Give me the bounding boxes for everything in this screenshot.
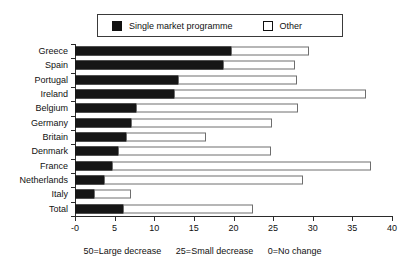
bar-row: France [75, 159, 392, 173]
x-axis-tick [273, 216, 274, 221]
bar-segment-other [136, 104, 299, 113]
bar-chart: Single market programme Other GreeceSpai… [0, 0, 405, 274]
chart-footnote: 50=Large decrease 25=Small decrease 0=No… [0, 246, 405, 257]
footnote-large-decrease: 50=Large decrease [84, 246, 162, 256]
footnote-no-change: 0=No change [268, 246, 322, 256]
stacked-bar [75, 133, 206, 142]
bar-segment-single-market-programme [75, 75, 179, 84]
legend-label-single-market-programme: Single market programme [129, 21, 233, 31]
bar-segment-single-market-programme [75, 147, 119, 156]
bar-row: Belgium [75, 101, 392, 115]
bar-row: Netherlands [75, 173, 392, 187]
bar-segment-other [118, 147, 271, 156]
y-axis-tick [71, 187, 76, 188]
bar-segment-single-market-programme [75, 133, 127, 142]
plot-area: GreeceSpainPortugalIrelandBelgiumGermany… [75, 44, 392, 216]
y-axis-label-belgium: Belgium [35, 103, 68, 113]
bar-segment-other [126, 133, 205, 142]
stacked-bar [75, 161, 371, 170]
bar-segment-single-market-programme [75, 47, 232, 56]
bar-row: Germany [75, 116, 392, 130]
x-axis-label-10: 10 [149, 223, 159, 233]
x-axis-label-25: 25 [268, 223, 278, 233]
legend-item-other: Other [263, 21, 303, 31]
x-axis-label-30: 30 [308, 223, 318, 233]
x-axis-label-40: 40 [387, 223, 397, 233]
bar-row: Denmark [75, 144, 392, 158]
y-axis-label-portugal: Portugal [34, 75, 68, 85]
x-axis-tick [75, 216, 76, 221]
y-axis-label-italy: Italy [51, 189, 68, 199]
bar-segment-other [231, 47, 309, 56]
bar-segment-other [223, 61, 295, 70]
bar-segment-other [131, 118, 271, 127]
bar-segment-single-market-programme [75, 118, 132, 127]
footnote-small-decrease: 25=Small decrease [176, 246, 253, 256]
stacked-bar [75, 90, 366, 99]
bar-row: Britain [75, 130, 392, 144]
y-axis-label-denmark: Denmark [31, 146, 68, 156]
stacked-bar [75, 204, 253, 213]
x-axis-tick [313, 216, 314, 221]
y-axis-tick [71, 116, 76, 117]
x-axis-tick [194, 216, 195, 221]
stacked-bar [75, 47, 309, 56]
legend-swatch-hollow-icon [263, 21, 273, 31]
x-axis-tick [234, 216, 235, 221]
bar-rows: GreeceSpainPortugalIrelandBelgiumGermany… [75, 44, 392, 216]
bar-segment-other [112, 161, 371, 170]
bar-segment-other [178, 75, 297, 84]
x-axis-label-35: 35 [347, 223, 357, 233]
bar-row: Ireland [75, 87, 392, 101]
stacked-bar [75, 118, 272, 127]
y-axis-label-britain: Britain [42, 132, 68, 142]
y-axis-label-spain: Spain [45, 60, 68, 70]
x-axis-label-15: 15 [189, 223, 199, 233]
x-axis-tick [392, 216, 393, 221]
bar-row: Greece [75, 44, 392, 58]
y-axis-tick [71, 58, 76, 59]
legend-swatch-filled-icon [112, 21, 122, 31]
bar-segment-other [123, 204, 252, 213]
y-axis-tick [71, 73, 76, 74]
bar-row: Total [75, 202, 392, 216]
y-axis-tick [71, 130, 76, 131]
bar-segment-single-market-programme [75, 90, 175, 99]
bar-segment-other [94, 190, 131, 199]
stacked-bar [75, 176, 303, 185]
y-axis-tick [71, 173, 76, 174]
bar-segment-single-market-programme [75, 176, 105, 185]
legend-item-single-market-programme: Single market programme [112, 21, 233, 31]
chart-legend: Single market programme Other [97, 14, 343, 37]
y-axis-tick [71, 159, 76, 160]
bar-segment-single-market-programme [75, 190, 95, 199]
y-axis-label-france: France [40, 161, 68, 171]
x-axis-tick [154, 216, 155, 221]
y-axis-label-germany: Germany [31, 118, 68, 128]
bar-segment-other [174, 90, 366, 99]
y-axis-label-greece: Greece [38, 46, 68, 56]
bar-segment-single-market-programme [75, 161, 113, 170]
y-axis-label-ireland: Ireland [40, 89, 68, 99]
y-axis-tick [71, 202, 76, 203]
x-axis-tick [352, 216, 353, 221]
bar-row: Portugal [75, 73, 392, 87]
y-axis-tick [71, 87, 76, 88]
bar-row: Italy [75, 187, 392, 201]
x-axis-label-neg0: -0 [71, 223, 79, 233]
stacked-bar [75, 147, 271, 156]
bar-segment-single-market-programme [75, 61, 224, 70]
stacked-bar [75, 190, 131, 199]
y-axis-label-total: Total [49, 204, 68, 214]
bar-row: Spain [75, 58, 392, 72]
stacked-bar [75, 75, 297, 84]
y-axis-tick [71, 44, 76, 45]
y-axis-label-netherlands: Netherlands [19, 175, 68, 185]
y-axis-tick [71, 101, 76, 102]
x-axis-label-20: 20 [228, 223, 238, 233]
x-axis-label-5: 5 [112, 223, 117, 233]
bar-segment-other [104, 176, 303, 185]
x-axis-tick [115, 216, 116, 221]
legend-label-other: Other [280, 21, 303, 31]
bar-segment-single-market-programme [75, 204, 124, 213]
